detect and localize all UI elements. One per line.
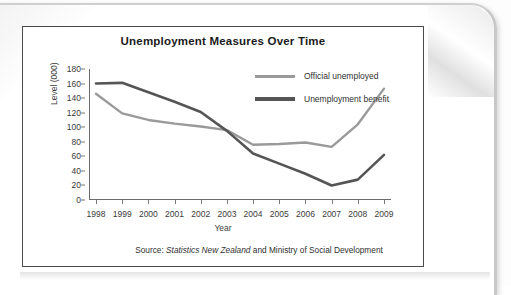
- y-tick-mark: [81, 185, 85, 186]
- x-tick-label: 2008: [348, 209, 367, 219]
- x-tick-label: 2009: [375, 209, 394, 219]
- x-tick-mark: [279, 200, 280, 204]
- y-tick-label: 100: [53, 122, 81, 132]
- y-tick-label: 60: [53, 151, 81, 161]
- source-publisher: Statistics New Zealand: [166, 245, 250, 255]
- y-axis-ticks: 020406080100120140160180: [51, 65, 85, 204]
- x-tick-mark: [96, 200, 97, 204]
- y-tick-mark: [81, 170, 85, 171]
- page-shadow: [20, 272, 490, 280]
- x-tick-mark: [201, 200, 202, 204]
- y-tick-mark: [81, 141, 85, 142]
- x-tick-mark: [175, 200, 176, 204]
- x-tick-label: 2000: [139, 209, 158, 219]
- legend-swatch-unemployment-benefit: [255, 97, 295, 100]
- y-tick-mark: [81, 112, 85, 113]
- y-tick-mark: [81, 127, 85, 128]
- y-tick-label: 120: [53, 108, 81, 118]
- y-tick-mark: [81, 83, 85, 84]
- y-tick-mark: [81, 200, 85, 201]
- y-tick-mark: [81, 156, 85, 157]
- y-tick-label: 80: [53, 137, 81, 147]
- x-tick-mark: [227, 200, 228, 204]
- legend-label-unemployment-benefit: Unemployment benefit: [304, 94, 389, 104]
- x-tick-label: 2005: [270, 209, 289, 219]
- x-tick-label: 2006: [296, 209, 315, 219]
- chart-title: Unemployment Measures Over Time: [23, 35, 423, 47]
- legend-label-official-unemployed: Official unemployed: [304, 71, 379, 81]
- legend-item-unemployment-benefit: Unemployment benefit: [255, 94, 389, 104]
- x-axis-title: Year: [23, 223, 423, 233]
- y-tick-label: 40: [53, 166, 81, 176]
- chart-figure: Unemployment Measures Over Time Level (0…: [22, 26, 424, 267]
- y-tick-label: 20: [53, 180, 81, 190]
- y-tick-label: 180: [53, 64, 81, 74]
- source-suffix: and Ministry of Social Development: [250, 245, 382, 255]
- x-tick-label: 1999: [113, 209, 132, 219]
- legend-item-official-unemployed: Official unemployed: [255, 71, 389, 81]
- x-tick-mark: [253, 200, 254, 204]
- y-tick-label: 0: [53, 195, 81, 205]
- x-tick-label: 2007: [322, 209, 341, 219]
- x-axis-ticks: 1998199920002001200220032004200520062007…: [89, 203, 391, 219]
- chart-legend: Official unemployed Unemployment benefit: [255, 71, 389, 117]
- x-tick-mark: [122, 200, 123, 204]
- x-tick-mark: [384, 200, 385, 204]
- x-tick-label: 1998: [87, 209, 106, 219]
- x-tick-label: 2004: [244, 209, 263, 219]
- y-tick-label: 160: [53, 79, 81, 89]
- y-tick-label: 140: [53, 93, 81, 103]
- x-tick-mark: [332, 200, 333, 204]
- y-tick-mark: [81, 98, 85, 99]
- source-note: Source: Statistics New Zealand and Minis…: [23, 245, 423, 255]
- x-tick-mark: [305, 200, 306, 204]
- x-tick-mark: [358, 200, 359, 204]
- source-prefix: Source:: [135, 245, 166, 255]
- x-tick-label: 2003: [217, 209, 236, 219]
- page-curl-highlight: [428, 5, 494, 97]
- y-tick-mark: [81, 69, 85, 70]
- x-tick-label: 2002: [191, 209, 210, 219]
- x-tick-label: 2001: [165, 209, 184, 219]
- legend-swatch-official-unemployed: [255, 75, 295, 78]
- x-tick-mark: [148, 200, 149, 204]
